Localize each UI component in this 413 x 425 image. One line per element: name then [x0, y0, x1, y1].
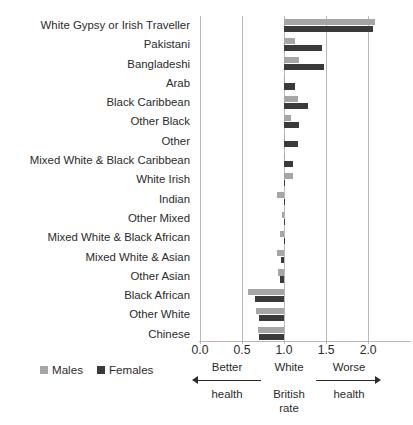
bar-females [284, 103, 308, 109]
bar-females [284, 219, 285, 225]
x-tick-label: 1.5 [306, 343, 346, 357]
bar-males [258, 327, 284, 333]
category-axis-labels: White Gypsy or Irish TravellerPakistaniB… [0, 16, 196, 344]
annotation-middle-line3: rate [279, 402, 299, 414]
bar-row [200, 228, 385, 247]
bar-females [284, 83, 295, 89]
annotation-better-line2-wrap: health [192, 388, 262, 400]
category-label: White Irish [0, 170, 196, 189]
bar-females [284, 180, 285, 186]
bar-females [284, 141, 298, 147]
category-label: Pakistani [0, 35, 196, 54]
category-label: Arab [0, 74, 196, 93]
category-label: Other Black [0, 112, 196, 131]
bar-males [284, 173, 293, 179]
bar-females [284, 64, 324, 70]
bar-males [277, 250, 285, 256]
bar-row [200, 170, 385, 189]
bar-row [200, 190, 385, 209]
bar-males [284, 115, 291, 121]
bar-males [282, 212, 285, 218]
bar-females [280, 276, 284, 282]
category-label: Other White [0, 305, 196, 324]
bar-row [200, 305, 385, 324]
x-axis-line [199, 341, 411, 342]
bar-males [277, 192, 284, 198]
legend-item: Males [40, 363, 83, 376]
bar-row [200, 55, 385, 74]
bar-females [284, 238, 285, 244]
bar-males [284, 134, 285, 140]
bars-panel [200, 16, 385, 341]
bar-row [200, 74, 385, 93]
bar-females [284, 26, 373, 32]
category-label: Other [0, 132, 196, 151]
legend-item: Females [97, 363, 153, 376]
legend-label: Males [52, 363, 83, 376]
bar-row [200, 267, 385, 286]
category-label: Mixed White & Black Caribbean [0, 151, 196, 170]
annotation-middle-line2: British [273, 388, 305, 400]
annotation-better-line2: health [211, 388, 242, 400]
bar-females [284, 45, 322, 51]
x-axis-tick-labels: 0.00.51.01.52.0 [200, 343, 400, 359]
bar-females [259, 334, 284, 340]
bar-females [284, 161, 293, 167]
bar-row [200, 93, 385, 112]
x-tick-label: 0.5 [222, 343, 262, 357]
x-tick-label: 2.0 [348, 343, 388, 357]
category-label: Indian [0, 190, 196, 209]
category-label: Bangladeshi [0, 55, 196, 74]
category-label: Black Caribbean [0, 93, 196, 112]
better-health-arrow [192, 375, 262, 387]
category-label: White Gypsy or Irish Traveller [0, 16, 196, 35]
annotation-middle-line2-wrap: British [262, 388, 316, 400]
annotation-better: Better [192, 360, 262, 374]
annotation-better-line1: Better [212, 361, 242, 373]
category-label: Mixed White & Asian [0, 248, 196, 267]
x-tick-label: 1.0 [264, 343, 304, 357]
worse-health-arrow [316, 375, 382, 387]
legend-swatch-females [97, 366, 105, 374]
bar-row [200, 35, 385, 54]
category-label: Black African [0, 286, 196, 305]
axis-annotation: Better White Worse health British health… [200, 360, 400, 422]
legend-swatch-males [40, 366, 48, 374]
bar-males [248, 289, 284, 295]
bar-females [281, 257, 284, 263]
annotation-worse: Worse [316, 360, 382, 374]
bar-row [200, 286, 385, 305]
category-label: Other Asian [0, 267, 196, 286]
bar-males [284, 57, 299, 63]
bar-males [284, 19, 375, 25]
bar-males [280, 231, 284, 237]
bar-females [284, 122, 299, 128]
bar-males [284, 154, 285, 160]
annotation-middle-line1: White [274, 361, 303, 373]
bar-males [284, 76, 285, 82]
bar-row [200, 132, 385, 151]
bar-males [256, 308, 284, 314]
annotation-worse-line1: Worse [333, 361, 366, 373]
bar-females [259, 315, 284, 321]
bar-row [200, 209, 385, 228]
bar-row [200, 16, 385, 35]
bar-rows [200, 16, 385, 344]
bar-row [200, 151, 385, 170]
plot-area: White Gypsy or Irish TravellerPakistaniB… [0, 0, 413, 340]
legend-label: Females [109, 363, 153, 376]
category-label: Other Mixed [0, 209, 196, 228]
ethnicity-health-ratio-chart: White Gypsy or Irish TravellerPakistaniB… [0, 0, 413, 425]
chart-legend: MalesFemales [40, 363, 153, 376]
annotation-middle-line3-wrap: rate [262, 402, 316, 414]
bar-row [200, 248, 385, 267]
annotation-worse-line2: health [333, 388, 364, 400]
bar-males [284, 96, 298, 102]
bar-males [278, 269, 284, 275]
bar-females [255, 296, 284, 302]
bar-males [284, 38, 295, 44]
x-tick-label: 0.0 [180, 343, 220, 357]
bar-row [200, 112, 385, 131]
bar-females [284, 199, 285, 205]
annotation-worse-line2-wrap: health [316, 388, 382, 400]
